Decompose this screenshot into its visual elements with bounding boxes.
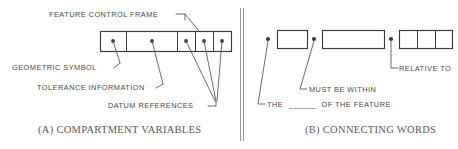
panel-divider — [241, 8, 244, 141]
the-of-the-feature-blank: ______ — [288, 100, 317, 109]
datum-reference-leader-2 — [204, 41, 216, 101]
figure-canvas: FEATURE CONTROL FRAME GEOMETRIC SYMBOL T… — [0, 0, 458, 149]
relative-to-label: RELATIVE TO — [399, 64, 451, 73]
must-be-within-label: MUST BE WITHIN — [309, 85, 376, 94]
datum-references-label: DATUM REFERENCES — [108, 101, 194, 110]
feature-control-frame-label: FEATURE CONTROL FRAME — [49, 10, 158, 19]
the-of-the-feature-leader — [258, 41, 268, 104]
the-of-the-feature-label-before: THE — [267, 100, 283, 109]
geometric-symbol-leader — [113, 41, 120, 68]
connecting-box-triple — [400, 31, 453, 49]
tolerance-information-leader — [152, 41, 163, 88]
datum-reference-leader-1 — [186, 41, 215, 101]
the-of-the-feature-label: THE ______ OF THE FEATURE — [267, 100, 391, 109]
the-of-the-feature-label-after: OF THE FEATURE — [322, 100, 391, 109]
datum-reference-leader-3 — [217, 41, 222, 101]
panel-b-caption: (B) CONNECTING WORDS — [305, 124, 436, 136]
panel-b: RELATIVE TO MUST BE WITHIN THE ______ OF… — [258, 31, 453, 137]
panel-a: FEATURE CONTROL FRAME GEOMETRIC SYMBOL T… — [12, 10, 232, 136]
geometric-symbol-label: GEOMETRIC SYMBOL — [12, 63, 97, 72]
panel-a-caption: (A) COMPARTMENT VARIABLES — [38, 124, 201, 136]
relative-to-leader — [391, 41, 398, 68]
connecting-dot-3 — [389, 37, 393, 41]
tolerance-information-label: TOLERANCE INFORMATION — [37, 83, 145, 92]
connecting-dot-2 — [312, 37, 316, 41]
datum-references-leader-hook — [208, 101, 216, 106]
feature-control-frame-leader — [176, 14, 199, 31]
connecting-box-wide — [323, 31, 385, 49]
connecting-dot-1 — [266, 37, 270, 41]
connecting-box-small — [278, 31, 308, 49]
feature-control-frame-outline — [101, 32, 232, 52]
